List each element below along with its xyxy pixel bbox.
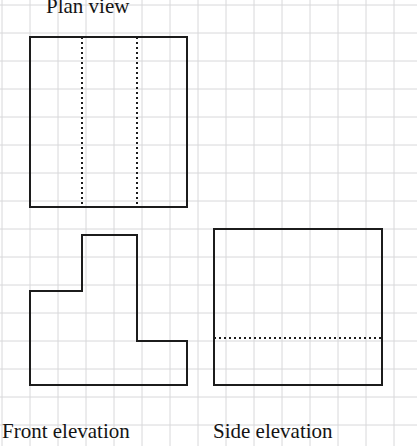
front-elevation-label: Front elevation: [2, 419, 130, 444]
plan-view-outline: [30, 37, 187, 207]
front-elevation-outline: [30, 235, 187, 385]
plan-view-label: Plan view: [46, 0, 129, 19]
plan-view-group: [30, 37, 187, 207]
side-elevation-group: [214, 229, 382, 385]
front-elevation-group: [30, 235, 187, 385]
side-elevation-outline: [214, 229, 382, 385]
orthographic-projection-drawing: Plan view Front elevation Side elevation: [0, 0, 417, 446]
drawing-layer: [0, 0, 417, 446]
side-elevation-label: Side elevation: [213, 419, 333, 444]
